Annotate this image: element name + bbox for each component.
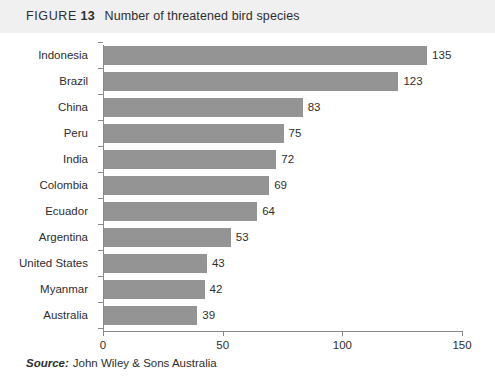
y-axis-tick (98, 146, 103, 147)
bar-value-label: 42 (210, 280, 223, 299)
source-label: Source: (26, 357, 69, 369)
bar-value-label: 83 (308, 98, 321, 117)
x-axis-tick (103, 331, 104, 336)
y-axis-tick (98, 198, 103, 199)
category-label: India (63, 150, 88, 169)
x-axis-tick-label: 50 (216, 339, 229, 351)
bar (104, 72, 398, 91)
category-axis-labels: IndonesiaBrazilChinaPeruIndiaColombiaEcu… (0, 45, 96, 331)
y-axis-tick (98, 120, 103, 121)
category-label: Myanmar (40, 280, 88, 299)
category-label: Australia (43, 306, 88, 325)
bar-value-label: 135 (432, 46, 451, 65)
category-label: Argentina (39, 228, 88, 247)
category-label: Peru (64, 124, 88, 143)
source-text: John Wiley & Sons Australia (73, 357, 217, 369)
bar-value-label: 43 (212, 254, 225, 273)
bar-value-label: 69 (274, 176, 287, 195)
bar (104, 306, 197, 325)
bar (104, 202, 257, 221)
y-axis-tick (98, 328, 103, 329)
source-line: Source:John Wiley & Sons Australia (26, 357, 217, 369)
y-axis-tick (98, 250, 103, 251)
figure-label-word: FIGURE (26, 9, 77, 23)
bar-series: 135123837572696453434239 (104, 45, 484, 331)
bar-value-label: 64 (262, 202, 275, 221)
bar (104, 228, 231, 247)
figure-number: 13 (80, 9, 95, 23)
category-label: Ecuador (45, 202, 88, 221)
x-axis-tick-label: 100 (333, 339, 352, 351)
bar-value-label: 123 (403, 72, 422, 91)
bar (104, 46, 427, 65)
category-label: China (58, 98, 88, 117)
y-axis-tick (98, 276, 103, 277)
bar (104, 176, 269, 195)
category-label: United States (19, 254, 88, 273)
category-label: Indonesia (38, 46, 88, 65)
y-axis-tick (98, 68, 103, 69)
x-axis-tick (223, 331, 224, 336)
bar-value-label: 72 (281, 150, 294, 169)
category-label: Brazil (59, 72, 88, 91)
x-axis-tick-label: 150 (452, 339, 471, 351)
y-axis-tick (98, 42, 103, 43)
x-axis-tick (462, 331, 463, 336)
bar (104, 254, 207, 273)
figure-caption: Number of threatened bird species (105, 9, 300, 23)
y-axis-tick (98, 94, 103, 95)
x-axis-tick (342, 331, 343, 336)
bar (104, 124, 284, 143)
bar (104, 98, 303, 117)
bar-chart: IndonesiaBrazilChinaPeruIndiaColombiaEcu… (0, 33, 495, 348)
page-title: FIGURE 13 Number of threatened bird spec… (26, 9, 300, 23)
y-axis-tick (98, 302, 103, 303)
bar-value-label: 53 (236, 228, 249, 247)
y-axis-tick (98, 172, 103, 173)
x-axis-tick-label: 0 (100, 339, 106, 351)
bar (104, 150, 276, 169)
bar-value-label: 39 (202, 306, 215, 325)
category-label: Colombia (39, 176, 88, 195)
y-axis-tick (98, 224, 103, 225)
x-axis-line (103, 331, 463, 332)
bar (104, 280, 205, 299)
bar-value-label: 75 (289, 124, 302, 143)
